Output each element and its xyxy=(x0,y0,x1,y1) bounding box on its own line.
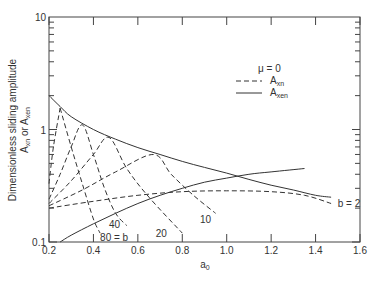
chart: 0.20.40.60.81.01.21.41.6 0.1110 a0 Dimen… xyxy=(0,0,376,281)
x-tick-label: 0.8 xyxy=(175,245,189,256)
plot-lines xyxy=(49,96,331,242)
x-axis-label: a0 xyxy=(200,259,210,271)
dashed-curve xyxy=(49,108,60,184)
dashed-curve xyxy=(49,191,331,208)
curve-label: 80 = b xyxy=(100,232,129,243)
y-axis-label-line1: Dimensionless sliding amplitude xyxy=(7,58,18,201)
dashed-curve xyxy=(49,125,127,226)
curve-label: 20 xyxy=(156,228,168,239)
mu-annotation: μ = 0 xyxy=(258,63,281,74)
y-axis-label-line2: Axn or Axen xyxy=(19,107,31,153)
y-tick-labels: 0.1110 xyxy=(32,12,46,248)
curve-labels: 80 = b402010b = 2 xyxy=(100,198,361,243)
curve-label: b = 2 xyxy=(338,198,361,209)
dashed-curve xyxy=(60,108,100,233)
axis-ticks xyxy=(49,17,360,242)
x-tick-label: 1.6 xyxy=(353,245,367,256)
x-tick-label: 0.4 xyxy=(86,245,100,256)
x-tick-label: 0.6 xyxy=(131,245,145,256)
y-tick-label: 0.1 xyxy=(32,237,46,248)
x-tick-label: 1.2 xyxy=(264,245,278,256)
x-tick-label: 1.0 xyxy=(220,245,234,256)
x-tick-labels: 0.20.40.60.81.01.21.41.6 xyxy=(42,245,367,256)
y-tick-label: 1 xyxy=(40,125,46,136)
x-tick-label: 1.4 xyxy=(309,245,323,256)
plot-frame xyxy=(49,17,360,242)
y-axis-label: Dimensionless sliding amplitude Axn or A… xyxy=(7,58,31,201)
legend-label-axen: Axen xyxy=(270,87,288,99)
curve-label: 10 xyxy=(200,214,212,225)
curve-label: 40 xyxy=(109,219,121,230)
solid-curve xyxy=(60,169,304,243)
y-tick-label: 10 xyxy=(35,12,47,23)
legend: Axn Axen xyxy=(236,75,288,99)
legend-label-axn: Axn xyxy=(270,75,284,87)
